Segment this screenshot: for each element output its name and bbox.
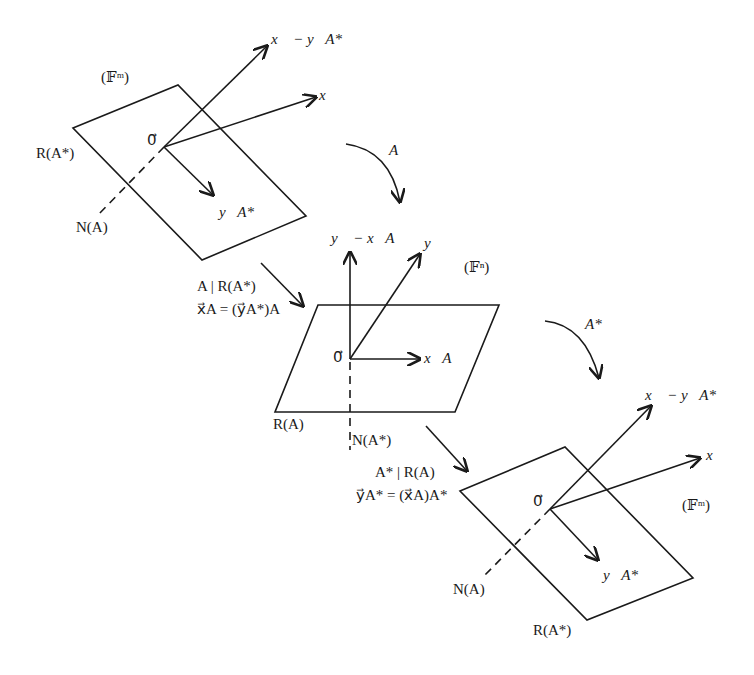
vector-label-yastar-top: y⃗A* [219, 205, 254, 220]
diagram-canvas [0, 0, 754, 675]
origin-label-top: 0⃗ [147, 133, 157, 148]
vector-label-x-minus-yastar-top: x⃗ − y⃗A* [271, 32, 342, 47]
origin-label-middle: 0⃗ [333, 350, 343, 365]
map-label-a: A [389, 143, 398, 158]
restriction-label-2: A* | R(A) [375, 465, 435, 480]
equation-label-2: y⃗A* = (x⃗A)A* [356, 488, 447, 503]
vector-label-x-bottom: x⃗ [706, 448, 724, 463]
vector-label-y-minus-xa: y⃗ − x⃗A [331, 231, 394, 246]
vector-label-yastar-bottom: y⃗A* [603, 568, 638, 583]
vector-y [350, 254, 420, 359]
vector-label-x-top: x⃗ [319, 88, 337, 103]
vector-x-minus-yastar-bottom [550, 406, 651, 509]
vector-yastar-bottom [550, 509, 598, 560]
null-space-a-line-top [98, 147, 164, 215]
plane-label-range-a-star-bottom: R(A*) [533, 623, 571, 638]
line-label-null-a-bottom: N(A) [453, 582, 485, 597]
vector-x-bottom [550, 458, 700, 509]
vector-label-y: y⃗ [424, 236, 442, 251]
equation-label-1: x⃗A = (y⃗A*)A [197, 302, 280, 317]
vector-yastar-top [164, 147, 213, 195]
map-label-a-star: A* [585, 317, 602, 332]
null-space-a-line-bottom [484, 509, 550, 576]
line-label-null-a-star: N(A*) [352, 433, 391, 448]
space-label-fm-bottom: (𝔽ᵐ) [682, 498, 710, 513]
vector-label-xa: x⃗A [424, 351, 452, 366]
space-label-fn: (𝔽ⁿ) [464, 260, 489, 275]
vector-x-minus-yastar-top [164, 46, 267, 147]
line-label-null-a-top: N(A) [76, 220, 108, 235]
vector-label-x-minus-yastar-bottom: x⃗ − y⃗A* [645, 388, 716, 403]
restriction-arrow-1 [261, 263, 303, 306]
restriction-label-1: A | R(A*) [197, 279, 256, 294]
plane-label-range-a-star-top: R(A*) [36, 146, 74, 161]
plane-label-range-a: R(A) [273, 417, 304, 432]
vector-x-top [164, 97, 316, 147]
space-label-fm-top: (𝔽ᵐ) [101, 70, 129, 85]
origin-label-bottom: 0⃗ [533, 494, 543, 509]
